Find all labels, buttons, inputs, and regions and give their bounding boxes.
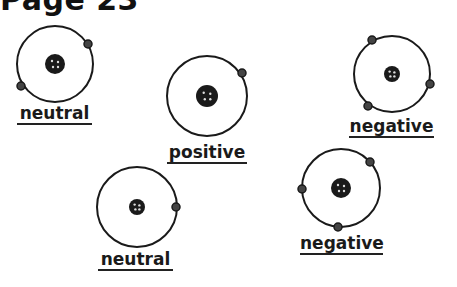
charge-label: positive [167,143,247,164]
electron [426,80,434,88]
electron [17,82,25,90]
nucleus [129,199,145,215]
atom-positive [167,56,247,136]
nucleon [393,71,395,73]
nucleon [138,204,140,206]
charge-label: neutral [98,250,173,271]
charge-label: negative [300,234,383,255]
atom-neutral [17,26,93,102]
atom-negative [354,36,434,112]
nucleon [209,98,211,100]
electron [238,69,246,77]
nucleon [134,208,136,210]
nucleus [384,66,400,82]
nucleon [204,98,206,100]
electron [334,223,342,231]
nucleon [337,184,339,186]
nucleon [388,70,390,72]
electron [172,203,180,211]
electron [368,36,376,44]
nucleus [45,54,65,74]
nucleon [343,190,345,192]
nucleon [393,75,395,77]
electron [364,102,372,110]
charge-label: negative [349,117,434,138]
nucleon [338,190,340,192]
nucleon [52,66,54,68]
nucleus [331,178,351,198]
charge-label: neutral [17,104,92,125]
nucleon [389,75,391,77]
nucleon [133,203,135,205]
nucleon [57,66,59,68]
nucleon [203,92,205,94]
electron [298,185,306,193]
nucleon [343,185,345,187]
nucleon [57,61,59,63]
atom-negative [298,149,380,231]
electron [366,158,374,166]
electron [84,40,92,48]
nucleon [138,208,140,210]
atom-neutral [97,167,180,247]
nucleus [196,85,218,107]
nucleon [51,60,53,62]
nucleon [209,93,211,95]
